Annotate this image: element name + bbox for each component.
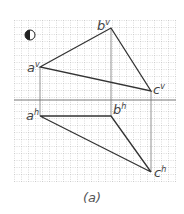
projection-diagram: av bv cv ah bh ch <box>0 0 184 214</box>
grid <box>14 20 176 182</box>
figure-caption: (a) <box>0 190 184 205</box>
half-moon-icon <box>25 30 35 40</box>
